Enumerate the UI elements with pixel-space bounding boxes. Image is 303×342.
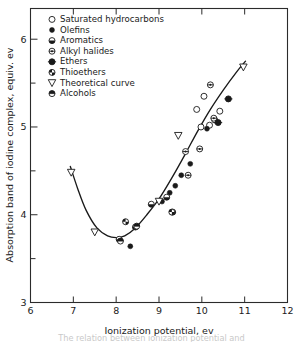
data-point-thioethers: [169, 209, 175, 215]
data-point-theoretical-curve: [91, 229, 99, 236]
data-point-alkyl-halides: [183, 149, 189, 155]
scatter-plot: 6789101112 3456 Ionization potential, ev…: [0, 0, 303, 342]
y-tick-label-3: 3: [20, 297, 26, 308]
legend-label-olefins: Olefins: [60, 25, 90, 35]
legend-label-theoretical-curve: Theoretical curve: [59, 78, 135, 88]
legend-label-alcohols: Alcohols: [60, 88, 96, 98]
x-tick-label-11: 11: [239, 305, 251, 316]
data-point-alcohols: [134, 223, 140, 229]
legend-marker-ethers: [48, 59, 56, 65]
legend: Saturated hydrocarbonsOlefinsAromaticsAl…: [48, 14, 165, 98]
legend-label-thioethers: Thioethers: [59, 67, 106, 77]
data-point-olefins: [205, 126, 210, 131]
y-tick-label-6: 6: [20, 34, 26, 45]
legend-marker-theoretical-curve: [48, 80, 56, 87]
data-point-thioethers: [123, 219, 129, 225]
y-axis-title: Absorption band of iodine complex, equiv…: [4, 47, 15, 262]
x-tick-label-6: 6: [27, 305, 33, 316]
legend-label-saturated-hydrocarbons: Saturated hydrocarbons: [60, 14, 164, 24]
y-tick-label-4: 4: [20, 209, 26, 220]
legend-marker-alcohols: [49, 91, 55, 97]
x-tick-label-7: 7: [70, 305, 76, 316]
data-point-alcohols: [117, 238, 123, 244]
x-tick-label-8: 8: [113, 305, 119, 316]
theoretical-curve-line: [70, 61, 245, 237]
legend-label-ethers: Ethers: [60, 56, 88, 66]
data-point-alkyl-halides: [197, 146, 203, 152]
data-point-theoretical-curve: [175, 132, 183, 139]
legend-label-alkyl-halides: Alkyl halides: [60, 46, 114, 56]
x-axis-tick-labels: 6789101112: [27, 305, 293, 316]
y-axis-ticks: [31, 39, 38, 302]
data-point-alkyl-halides: [207, 82, 213, 88]
data-point-alkyl-halides: [185, 172, 191, 178]
legend-label-aromatics: Aromatics: [60, 35, 104, 45]
data-point-saturated-hydrocarbons: [217, 108, 223, 114]
figure-caption: The relation between ionization potentia…: [0, 334, 303, 342]
data-point-aromatics: [148, 201, 154, 207]
x-tick-label-9: 9: [156, 305, 162, 316]
data-point-ethers: [224, 96, 232, 102]
data-point-olefins: [173, 183, 178, 188]
data-point-saturated-hydrocarbons: [194, 106, 200, 112]
x-tick-label-10: 10: [196, 305, 208, 316]
y-axis-tick-labels: 3456: [20, 34, 26, 308]
data-point-saturated-hydrocarbons: [201, 93, 207, 99]
data-point-saturated-hydrocarbons: [198, 124, 204, 130]
data-point-olefins: [179, 173, 184, 178]
data-point-olefins: [128, 244, 133, 249]
legend-marker-alkyl-halides: [49, 48, 55, 54]
data-point-olefins: [188, 161, 193, 166]
legend-marker-olefins: [50, 28, 55, 33]
legend-marker-saturated-hydrocarbons: [49, 16, 55, 22]
x-tick-label-12: 12: [281, 305, 293, 316]
y-tick-label-5: 5: [20, 121, 26, 132]
data-point-aromatics: [164, 194, 170, 200]
legend-marker-aromatics: [49, 38, 55, 44]
figure-container: 6789101112 3456 Ionization potential, ev…: [0, 0, 303, 342]
legend-marker-thioethers: [49, 69, 55, 75]
